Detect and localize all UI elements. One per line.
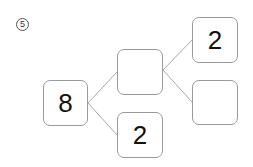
middle-answer-box[interactable]	[117, 49, 163, 95]
bottom-right-answer-box[interactable]	[192, 80, 238, 125]
connector-root-to-middle	[88, 72, 117, 103]
bottom-box: 2	[117, 112, 163, 158]
connector-middle-to-bottom-right	[163, 70, 192, 102]
top-right-box: 2	[192, 17, 238, 63]
connector-root-to-bottom	[88, 103, 117, 135]
root-box: 8	[43, 80, 88, 126]
connector-middle-to-top-right	[163, 40, 192, 70]
